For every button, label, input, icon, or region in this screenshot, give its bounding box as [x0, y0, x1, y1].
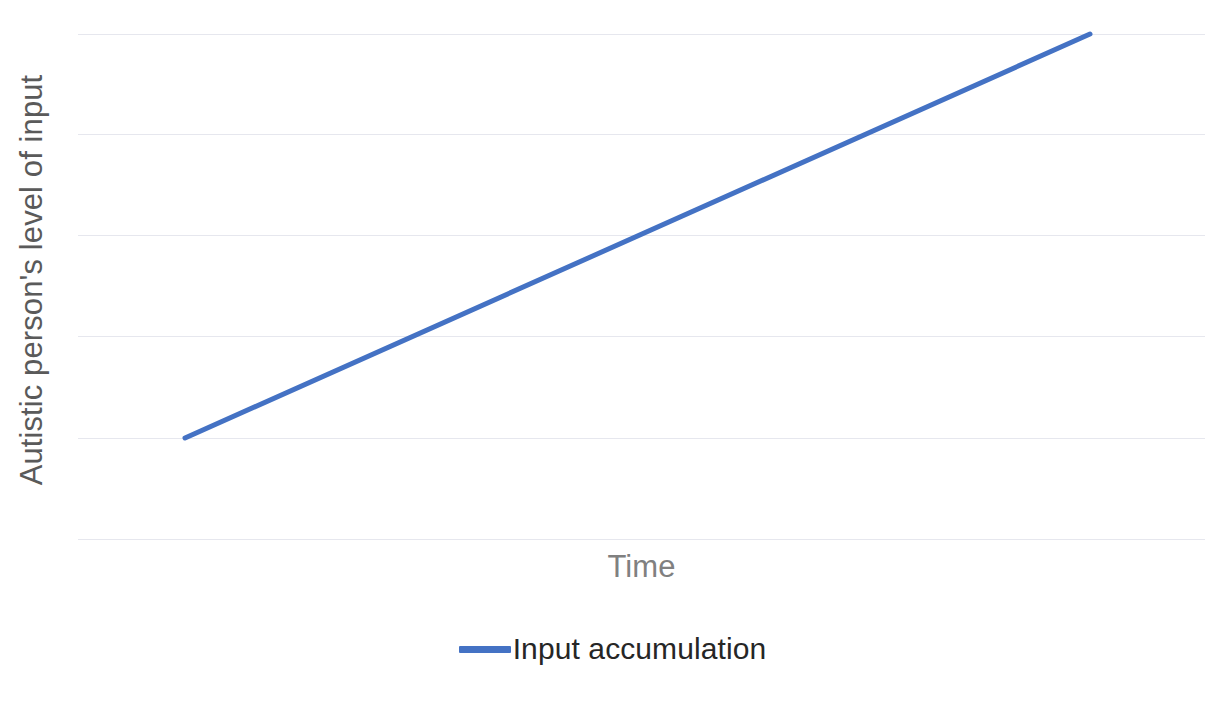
legend-item-input-accumulation[interactable]: Input accumulation	[459, 632, 767, 666]
plot-area	[78, 20, 1205, 555]
chart-container: Autistic person's level of input Time In…	[0, 0, 1225, 710]
legend-item-label: Input accumulation	[513, 632, 767, 666]
legend-line-swatch-icon	[459, 646, 511, 653]
series-line-input-accumulation[interactable]	[185, 34, 1090, 438]
x-axis-title: Time	[78, 549, 1205, 585]
series-input-accumulation[interactable]	[78, 20, 1205, 555]
chart-legend: Input accumulation	[0, 632, 1225, 666]
y-axis-title: Autistic person's level of input	[0, 0, 64, 560]
